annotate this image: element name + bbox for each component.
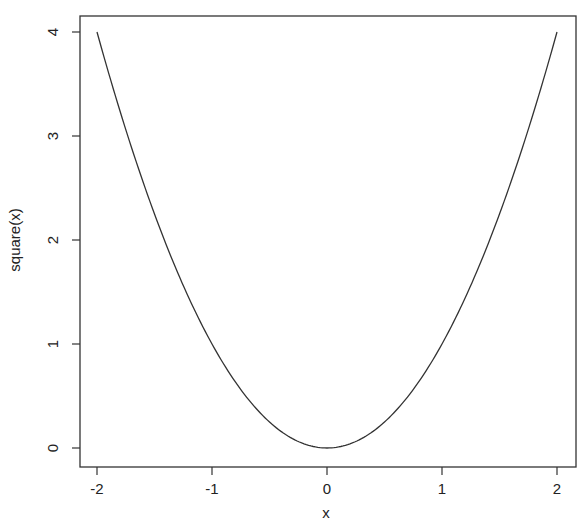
plot-frame — [80, 16, 576, 467]
y-axis-label: square(x) — [6, 208, 23, 271]
x-tick-label: 2 — [553, 480, 561, 497]
x-tick-label: -1 — [205, 480, 218, 497]
y-tick-label: 0 — [44, 444, 61, 452]
x-tick-label: -2 — [90, 480, 103, 497]
y-tick-label: 2 — [44, 236, 61, 244]
y-tick-label: 3 — [44, 132, 61, 140]
x-axis-label: x — [322, 504, 330, 521]
x-tick-label: 0 — [323, 480, 331, 497]
x-tick-label: 1 — [438, 480, 446, 497]
y-tick-label: 1 — [44, 340, 61, 348]
data-line-square — [97, 32, 557, 448]
y-tick-label: 4 — [44, 28, 61, 36]
x-axis-ticks: -2-1012 — [90, 467, 561, 497]
chart-canvas: -2-1012 01234 x square(x) — [0, 0, 578, 527]
y-axis-ticks: 01234 — [44, 28, 80, 452]
